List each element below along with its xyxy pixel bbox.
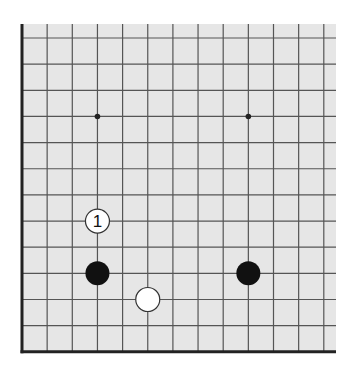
black-stone-icon xyxy=(236,261,260,285)
star-point-icon xyxy=(246,114,252,120)
white-stone[interactable] xyxy=(136,288,160,312)
black-stone[interactable] xyxy=(236,261,260,285)
star-point-icon xyxy=(95,114,101,120)
board-background xyxy=(22,24,336,353)
stone-move-number: 1 xyxy=(93,212,102,231)
white-stone[interactable]: 1 xyxy=(85,209,109,233)
black-stone[interactable] xyxy=(85,261,109,285)
black-stone-icon xyxy=(85,261,109,285)
white-stone-icon xyxy=(136,288,160,312)
go-board[interactable]: 1 xyxy=(0,0,356,373)
